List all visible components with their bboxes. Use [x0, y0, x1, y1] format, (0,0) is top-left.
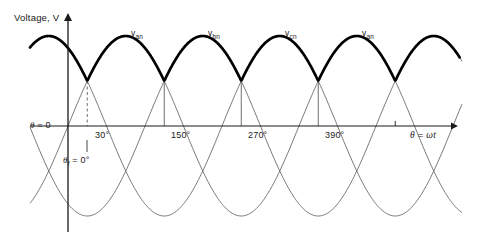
waveform-plot [0, 0, 485, 243]
origin-label: θ = 0 [30, 120, 51, 130]
x-tick-label-150: 150° [171, 130, 190, 140]
equals: = [415, 129, 426, 140]
x-tick-label-30: 30° [95, 130, 109, 140]
figure-canvas: Voltage, V θ = ωt θ = 0 θf = 0° vanvbnvc… [0, 0, 485, 243]
omega-t-symbol: ωt [426, 130, 436, 140]
origin-value: = 0 [35, 120, 51, 130]
x-tick-label-390: 390° [325, 130, 344, 140]
curve-label-vbn-1: vbn [208, 28, 220, 40]
x-tick-label-270: 270° [248, 130, 267, 140]
curve-label-subscript: an [366, 33, 374, 40]
cusp-drop-lines [87, 81, 318, 126]
curve-label-subscript: bn [212, 33, 220, 40]
curve-label-vcn-1: vcn [285, 28, 297, 40]
x-axis-label: θ = ωt [410, 129, 436, 140]
curve-label-subscript: cn [289, 33, 296, 40]
firing-angle-label: θf = 0° [63, 155, 90, 167]
curve-label-van-1: van [131, 28, 143, 40]
rectified-output-envelope [30, 36, 460, 80]
y-axis-label: Voltage, V [14, 12, 59, 23]
curve-label-van-2: van [362, 28, 374, 40]
firing-angle-value: = 0° [70, 155, 90, 165]
curve-label-subscript: an [135, 33, 143, 40]
